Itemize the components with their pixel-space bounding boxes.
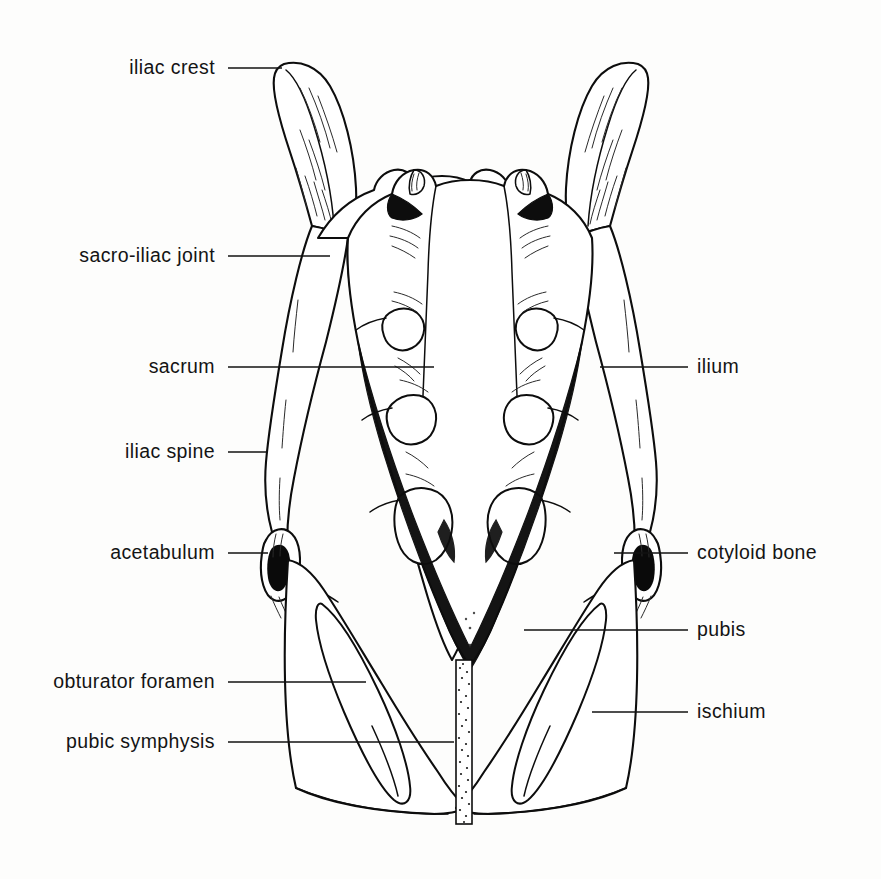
label-pubis: pubis — [697, 620, 746, 640]
left-ilium-body — [265, 226, 348, 560]
label-obturator-foramen: obturator foramen — [53, 672, 215, 692]
pubic-symphysis — [456, 660, 472, 824]
label-iliac-crest: iliac crest — [129, 58, 215, 78]
label-acetabulum: acetabulum — [110, 543, 215, 563]
label-sacrum: sacrum — [149, 357, 215, 377]
label-ischium: ischium — [697, 702, 766, 722]
label-pubic-symphysis: pubic symphysis — [66, 732, 215, 752]
label-sacro-iliac-joint: sacro-iliac joint — [79, 246, 215, 266]
label-cotyloid-bone: cotyloid bone — [697, 543, 817, 563]
sacrum-shape — [347, 170, 592, 666]
label-iliac-spine: iliac spine — [125, 442, 215, 462]
label-ilium: ilium — [697, 357, 739, 377]
figure-root: iliac crest sacro-iliac joint sacrum ili… — [0, 0, 881, 879]
